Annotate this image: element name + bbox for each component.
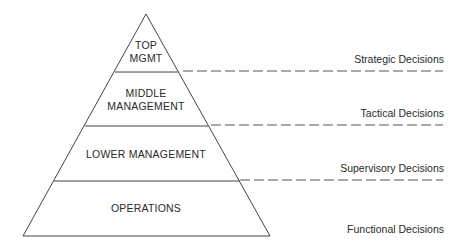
tier-label-operations: OPERATIONS bbox=[66, 202, 226, 215]
tier-label-lower-management: LOWER MANAGEMENT bbox=[66, 148, 226, 161]
decision-label-supervisory: Supervisory Decisions bbox=[340, 162, 444, 174]
tier-label-line: OPERATIONS bbox=[66, 202, 226, 215]
decision-label-tactical: Tactical Decisions bbox=[361, 107, 444, 119]
tier-label-line: LOWER MANAGEMENT bbox=[66, 148, 226, 161]
tier-label-line: MANAGEMENT bbox=[86, 100, 206, 113]
tier-label-line: TOP bbox=[106, 39, 186, 52]
tier-label-line: MGMT bbox=[106, 52, 186, 65]
decision-label-strategic: Strategic Decisions bbox=[354, 53, 444, 65]
tier-label-line: MIDDLE bbox=[86, 87, 206, 100]
decision-label-functional: Functional Decisions bbox=[347, 223, 444, 235]
tier-label-middle-management: MIDDLE MANAGEMENT bbox=[86, 87, 206, 113]
tier-label-top-management: TOP MGMT bbox=[106, 39, 186, 65]
